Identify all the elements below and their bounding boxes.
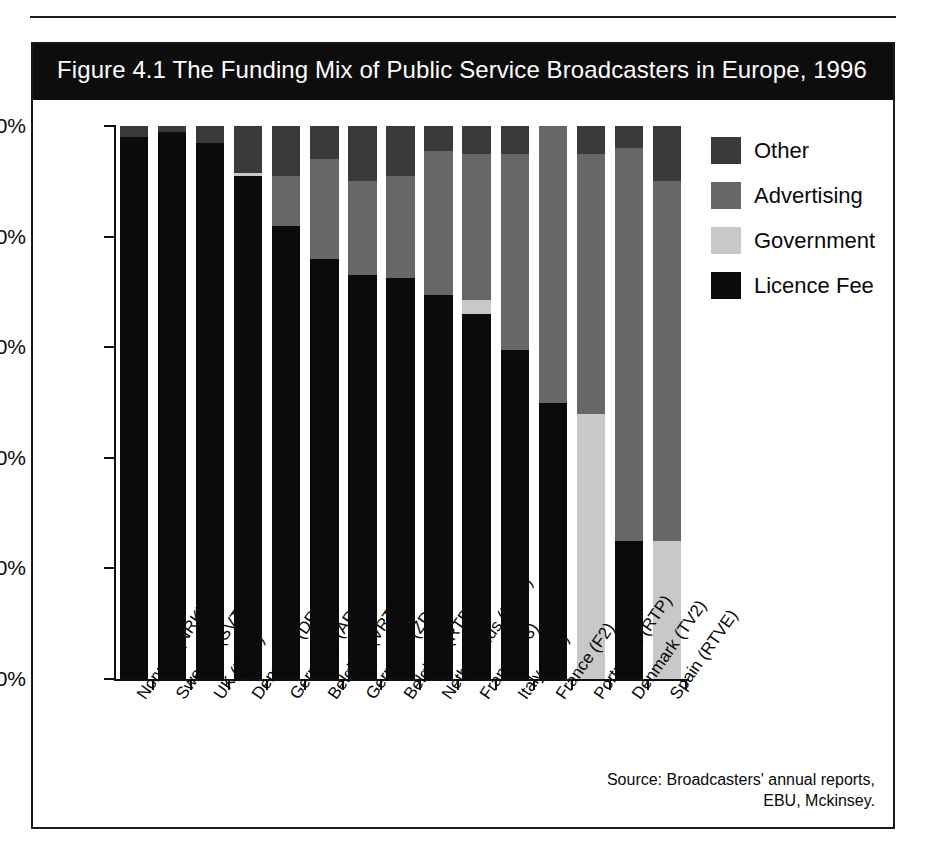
bar-segment-other [310,126,338,159]
bar-segment-licence-fee [158,132,186,679]
licence-fee-swatch [711,272,741,299]
legend-item-label: Advertising [754,183,863,209]
y-axis-tick-mark [104,567,115,569]
bar-segment-advertising [501,154,529,350]
stacked-bar [158,126,186,679]
bar-segment-other [577,126,605,154]
bar-segment-other [462,126,490,154]
bar-segment-advertising [615,148,643,541]
bar-segment-government [462,300,490,314]
bar-segment-other [386,126,414,176]
bar-segment-advertising [424,151,452,295]
y-axis-tick-label: 80% [0,225,26,249]
y-axis-tick-mark [104,125,115,127]
legend-item: Advertising [711,173,891,218]
y-axis-tick-mark [104,678,115,680]
bar-segment-advertising [653,181,681,540]
stacked-bar [310,126,338,679]
stacked-bar [196,126,224,679]
bar-segment-advertising [577,154,605,414]
legend-item: Licence Fee [711,263,891,308]
bar-segment-licence-fee [272,226,300,679]
advertising-swatch [711,182,741,209]
y-axis-tick-mark [104,457,115,459]
bar-segment-advertising [310,159,338,259]
bar-segment-other [653,126,681,181]
y-axis-tick-mark [104,346,115,348]
y-axis-tick-label: 20% [0,556,26,580]
legend-item: Other [711,128,891,173]
bar-segment-other [120,126,148,137]
stacked-bar [577,126,605,679]
bar-segment-advertising [386,176,414,278]
legend-item-label: Licence Fee [754,273,874,299]
legend-item-label: Other [754,138,809,164]
bar-segment-advertising [539,126,567,403]
bar-segment-government [234,173,262,176]
bar-segment-other [196,126,224,143]
government-swatch [711,227,741,254]
stacked-bar [272,126,300,679]
bar-segment-advertising [348,181,376,275]
page-top-rule [30,16,896,18]
other-swatch [711,137,741,164]
legend-item: Government [711,218,891,263]
bar-segment-other [158,126,186,132]
figure-frame: Figure 4.1 The Funding Mix of Public Ser… [31,42,895,829]
bar-segment-other [234,126,262,173]
y-axis-tick-label: 60% [0,335,26,359]
y-axis-tick-label: 100% [0,114,26,138]
bar-segment-other [501,126,529,154]
stacked-bar [615,126,643,679]
bar-segment-licence-fee [120,137,148,679]
y-axis-tick-label: 40% [0,446,26,470]
stacked-bar [539,126,567,679]
stacked-bar-series [115,126,686,679]
plot-wrapper: 0%20%40%60%80%100% Norway (NRK)Sweden (S… [33,44,893,827]
stacked-bar [120,126,148,679]
bar-segment-other [615,126,643,148]
bar-segment-other [348,126,376,181]
bar-segment-other [272,126,300,176]
bar-segment-licence-fee [196,143,224,679]
y-axis-tick-mark [104,236,115,238]
bar-segment-advertising [272,176,300,226]
legend-item-label: Government [754,228,875,254]
stacked-bar [386,126,414,679]
x-axis-category-labels: Norway (NRK)Sweden (SVT)UK (BBC)Denmark … [115,692,686,832]
stacked-bar [234,126,262,679]
chart-legend: OtherAdvertisingGovernmentLicence Fee [711,128,891,308]
source-note: Source: Broadcasters' annual reports, EB… [590,769,875,811]
bar-segment-advertising [462,154,490,301]
y-axis-tick-label: 0% [0,667,26,691]
bar-segment-other [424,126,452,151]
